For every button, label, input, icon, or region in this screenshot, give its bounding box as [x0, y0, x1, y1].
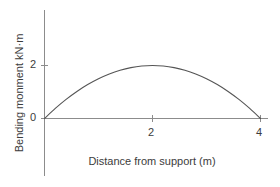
bending-moment-chart: 2 0 2 4 Bending monment kN·m Distance fr… — [0, 0, 280, 187]
bending-moment-curve — [45, 66, 261, 119]
x-axis-title: Distance from support (m) — [44, 155, 260, 167]
y-axis-tick-label-2: 2 — [30, 59, 36, 70]
y-axis-title: Bending monment kN·m — [13, 18, 25, 168]
y-axis-tick-label-0: 0 — [30, 112, 36, 123]
x-axis-tick-label-2: 2 — [148, 127, 154, 138]
x-axis-tick-label-4: 4 — [256, 127, 262, 138]
